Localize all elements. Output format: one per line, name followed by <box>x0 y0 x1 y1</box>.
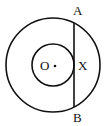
center-point-dot <box>54 65 57 68</box>
label-a: A <box>73 3 83 18</box>
inner-circle <box>32 44 74 86</box>
label-x: X <box>78 58 88 73</box>
concentric-circles-diagram: A B X O <box>0 0 104 126</box>
label-o: O <box>40 58 49 73</box>
label-b: B <box>73 110 82 125</box>
